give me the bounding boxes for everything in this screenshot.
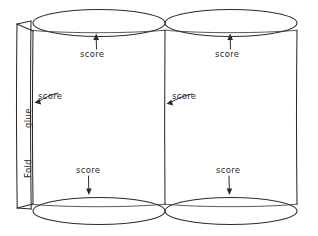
right-cylinder-bottom-ellipse (165, 198, 297, 225)
score-label-middle: score (172, 92, 196, 101)
arrow-score-bottom-right (227, 176, 233, 195)
glue-flap-bottom-edge (17, 208, 31, 209)
score-label-bottom-right: score (216, 166, 240, 175)
score-label-bottom-left: score (76, 166, 100, 175)
glue-flap-outer-edge (17, 24, 18, 208)
score-label-top-right: score (215, 50, 239, 59)
right-cylinder-bottom-chord (165, 204, 297, 206)
arrow-score-bottom-left (86, 176, 92, 195)
diagram-canvas (0, 0, 318, 236)
score-label-left: score (38, 92, 62, 101)
left-cylinder (33, 10, 165, 225)
arrow-score-top-left (93, 34, 99, 50)
score-label-top-left: score (80, 50, 104, 59)
left-cylinder-bottom-chord (33, 204, 165, 207)
glue-flap-label: glue (24, 108, 33, 128)
glue-flap-bottom-diagonal (17, 204, 33, 208)
right-cylinder (165, 10, 297, 225)
glue-flap-top-edge (17, 21, 31, 24)
arrow-score-top-right (227, 34, 233, 50)
left-cylinder-bottom-ellipse (33, 198, 165, 225)
fold-edge-label: Fold (24, 159, 33, 178)
cylinder-template-diagram: score score score score score score glue… (0, 0, 318, 236)
